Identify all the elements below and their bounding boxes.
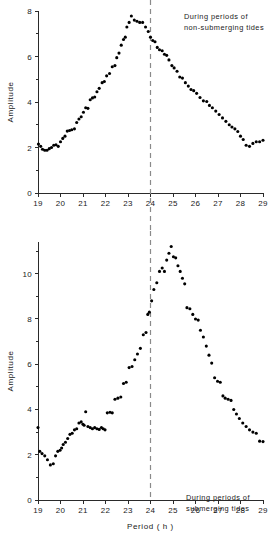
data-point <box>208 104 211 107</box>
data-point <box>128 366 131 369</box>
data-point <box>214 110 217 113</box>
data-point <box>183 282 186 285</box>
data-point <box>75 121 78 124</box>
data-point <box>239 135 242 138</box>
data-point <box>161 49 164 52</box>
data-point <box>189 88 192 91</box>
data-point <box>62 443 65 446</box>
x-tick-label: 22 <box>101 199 111 208</box>
data-point <box>36 426 39 429</box>
data-point <box>202 99 205 102</box>
data-point <box>93 95 96 98</box>
data-point <box>221 394 224 397</box>
data-point <box>213 376 216 379</box>
data-point <box>144 331 147 334</box>
y-tick-label: 0 <box>27 496 32 505</box>
data-point <box>158 270 161 273</box>
data-point <box>104 428 107 431</box>
data-point <box>245 425 248 428</box>
data-point <box>188 307 191 310</box>
data-point <box>236 130 239 133</box>
data-point <box>57 145 60 148</box>
data-point <box>73 127 76 130</box>
data-point <box>148 311 151 314</box>
data-point <box>255 432 258 435</box>
data-point <box>108 72 111 75</box>
data-point <box>37 143 40 146</box>
annotation-top-line2: non-submerging tides <box>184 22 264 33</box>
data-point <box>111 411 114 414</box>
plot-area-top: 024681920212223242526272829Amplitude <box>0 0 274 230</box>
x-tick-label: 19 <box>33 506 43 515</box>
x-tick-label: 23 <box>123 199 133 208</box>
data-point <box>184 81 187 84</box>
data-point <box>238 417 241 420</box>
data-point <box>187 85 190 88</box>
data-point <box>178 75 181 78</box>
data-point <box>70 128 73 131</box>
data-point <box>103 80 106 83</box>
data-point <box>163 270 166 273</box>
data-point <box>60 446 63 449</box>
x-tick-label: 21 <box>78 199 88 208</box>
data-point <box>131 365 134 368</box>
data-point <box>176 70 179 73</box>
data-point <box>98 87 101 90</box>
data-point <box>113 398 116 401</box>
data-point <box>242 138 245 141</box>
data-point <box>41 452 44 455</box>
data-point <box>115 56 118 59</box>
annotation-bottom-line2: submerging tides <box>186 503 250 514</box>
data-point <box>232 408 235 411</box>
data-point <box>71 432 74 435</box>
data-point <box>224 397 227 400</box>
data-point <box>125 25 128 28</box>
x-tick-label: 20 <box>56 506 66 515</box>
data-point <box>251 431 254 434</box>
data-point <box>170 64 173 67</box>
data-point <box>191 313 194 316</box>
data-point <box>64 441 67 444</box>
data-point <box>170 245 173 248</box>
data-point <box>153 40 156 43</box>
data-point <box>227 398 230 401</box>
data-point <box>133 358 136 361</box>
data-point <box>105 74 108 77</box>
data-point <box>141 21 144 24</box>
data-point <box>124 36 127 39</box>
data-point <box>38 450 41 453</box>
data-point <box>50 146 53 149</box>
annotation-top: During periods of non-submerging tides <box>184 11 264 34</box>
data-point <box>61 137 64 140</box>
data-point <box>218 113 221 116</box>
annotation-top-line1: During periods of <box>184 11 264 22</box>
data-point <box>205 100 208 103</box>
y-tick-label: 4 <box>27 405 32 414</box>
data-point <box>199 329 202 332</box>
data-point <box>113 64 116 67</box>
data-point <box>205 345 208 348</box>
data-point <box>161 266 164 269</box>
data-point <box>258 440 261 443</box>
data-point <box>176 264 179 267</box>
data-point <box>248 145 251 148</box>
data-point <box>181 277 184 280</box>
data-point <box>158 48 161 51</box>
data-point <box>82 111 85 114</box>
data-point <box>142 333 145 336</box>
data-point <box>194 317 197 320</box>
data-point <box>125 381 128 384</box>
x-tick-label: 27 <box>213 199 223 208</box>
data-point <box>63 135 66 138</box>
data-point <box>83 424 86 427</box>
data-point <box>75 427 78 430</box>
y-tick-label: 4 <box>27 98 32 107</box>
data-point <box>139 347 142 350</box>
data-point <box>221 116 224 119</box>
data-point <box>210 362 213 365</box>
y-tick-label: 2 <box>27 451 32 460</box>
data-point <box>167 58 170 61</box>
x-tick-label: 25 <box>168 199 178 208</box>
y-tick-label: 6 <box>27 53 32 62</box>
data-point <box>39 145 42 148</box>
